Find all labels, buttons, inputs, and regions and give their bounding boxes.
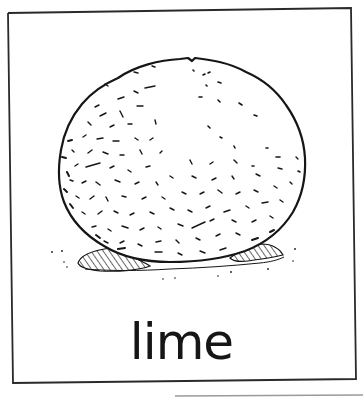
lime-outline [59,58,305,262]
word-label: lime [0,312,363,372]
